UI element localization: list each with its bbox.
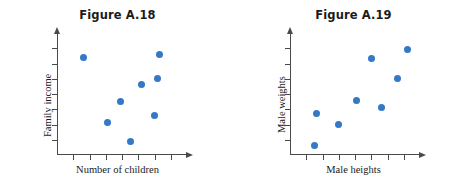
scatter-data-point	[313, 110, 320, 117]
scatter-plot-area	[57, 33, 187, 155]
scatter-data-point	[138, 81, 145, 88]
scatter-data-point	[151, 112, 158, 119]
x-axis-tick	[122, 155, 123, 160]
scatter-data-point	[368, 55, 375, 62]
x-axis-label: Male heights	[236, 164, 471, 175]
figure-panel-a18: Figure A.18 Family income Number of chil…	[0, 0, 235, 183]
x-axis-tick	[106, 155, 107, 160]
x-axis-tick	[355, 155, 356, 160]
x-axis-tick	[171, 155, 172, 160]
scatter-data-point	[154, 75, 161, 82]
scatter-data-point	[104, 119, 111, 126]
x-axis-tick	[90, 155, 91, 160]
y-axis-tick	[52, 48, 57, 49]
scatter-data-point	[378, 104, 385, 111]
scatter-data-point	[311, 142, 318, 149]
x-axis-tick	[306, 155, 307, 160]
scatter-data-point	[394, 75, 401, 82]
y-axis-tick	[285, 64, 290, 65]
scatter-data-point	[335, 121, 342, 128]
y-axis-tick	[52, 140, 57, 141]
y-axis-line	[57, 33, 58, 155]
x-axis-arrow-icon	[419, 152, 426, 158]
x-axis-tick	[404, 155, 405, 160]
scatter-data-point	[80, 54, 87, 61]
x-axis-tick	[155, 155, 156, 160]
scatter-data-point	[117, 98, 124, 105]
y-axis-line	[290, 33, 291, 155]
figure-sheet: Figure A.18 Family income Number of chil…	[0, 0, 471, 183]
figure-title: Figure A.18	[0, 8, 235, 22]
x-axis-tick	[371, 155, 372, 160]
figure-title: Figure A.19	[236, 8, 471, 22]
x-axis-tick	[138, 155, 139, 160]
x-axis-arrow-icon	[186, 152, 193, 158]
x-axis-label: Number of children	[0, 164, 235, 175]
figure-panel-a19: Figure A.19 Male weights Male heights	[236, 0, 471, 183]
y-axis-arrow-icon	[287, 27, 293, 34]
x-axis-tick	[73, 155, 74, 160]
y-axis-arrow-icon	[54, 27, 60, 34]
y-axis-tick	[52, 64, 57, 65]
scatter-data-point	[127, 138, 134, 145]
y-axis-tick	[285, 140, 290, 141]
y-axis-label: Family income	[42, 74, 53, 137]
x-axis-tick	[388, 155, 389, 160]
y-axis-tick	[285, 48, 290, 49]
scatter-data-point	[404, 46, 411, 53]
scatter-plot-area	[290, 33, 420, 155]
scatter-data-point	[156, 51, 163, 58]
scatter-data-point	[353, 97, 360, 104]
x-axis-tick	[323, 155, 324, 160]
y-axis-label: Male weights	[276, 76, 287, 133]
x-axis-tick	[339, 155, 340, 160]
